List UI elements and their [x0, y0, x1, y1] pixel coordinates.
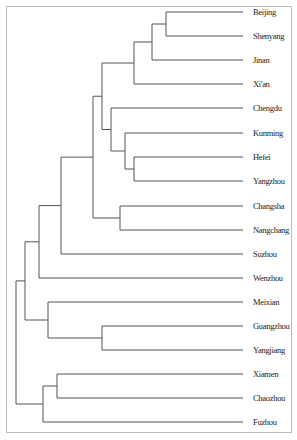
leaf-label-chaozhou: Chaozhou	[253, 393, 285, 403]
leaf-label-shenyang: Shenyang	[253, 31, 284, 41]
leaf-label-chengdu: Chengdu	[253, 103, 282, 113]
leaf-label-yangzhou: Yangzhou	[253, 176, 285, 186]
leaf-label-xian: Xi'an	[253, 79, 270, 89]
leaf-label-jinan: Jinan	[253, 55, 269, 65]
leaf-label-wenzhou: Wenzhou	[253, 273, 283, 283]
leaf-label-kunming: Kunming	[253, 128, 283, 138]
leaf-label-suzhou: Suzhou	[253, 249, 277, 259]
leaf-label-hefei: Hefei	[253, 152, 270, 162]
leaf-label-guangzhou: Guangzhou	[253, 321, 289, 331]
leaf-label-meixian: Meixian	[253, 297, 279, 307]
leaf-label-changsha: Changsha	[253, 201, 284, 211]
leaf-label-beijing: Beijing	[253, 7, 276, 17]
leaf-label-yangjiang: Yangjiang	[253, 345, 285, 355]
leaf-label-xiamen: Xiamen	[253, 369, 278, 379]
leaf-label-nangchang: Nangchang	[253, 225, 289, 235]
leaf-label-fuzhou: Fuzhou	[253, 417, 277, 427]
